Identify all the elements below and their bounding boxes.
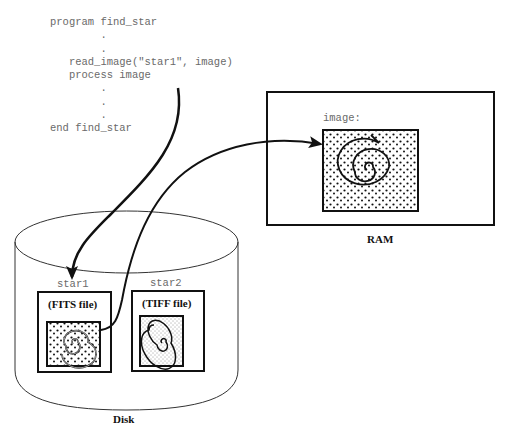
program-code-listing: program find_star . . read_image("star1"… [50,16,233,136]
file-name-star1: star1 [57,278,89,290]
file-name-star2: star2 [150,277,182,289]
ram-label: RAM [367,233,393,245]
code-line: . [50,96,233,109]
disk-label: Disk [113,413,134,425]
code-line: read_image("star1", image) [50,56,233,69]
code-line: program find_star [50,16,233,29]
ram-variable-label: image: [323,112,361,124]
code-line: . [50,43,233,56]
file-type-star1: (FITS file) [48,298,97,310]
file-type-star2: (TIFF file) [142,297,191,309]
code-line: end find_star [50,122,233,135]
code-line: . [50,29,233,42]
code-line: . [50,109,233,122]
code-line: . [50,82,233,95]
ram-box [267,92,494,225]
code-line: process image [50,69,233,82]
